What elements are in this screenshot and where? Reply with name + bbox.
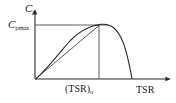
y-axis-label-cp: Cp <box>25 3 36 16</box>
x-axis-title: TSR <box>136 85 154 95</box>
y-axis-label-cpmax-subscript: pmax <box>15 24 29 31</box>
cp-curve <box>36 24 132 79</box>
x-axis-label-tsr-optimum: (TSR)o <box>65 84 93 96</box>
tangent-line <box>36 26 99 79</box>
x-axis-label-tsr-optimum-text: (TSR) <box>65 83 90 94</box>
y-axis-label-cpmax: Cpmax <box>8 19 29 32</box>
y-axis-label-cp-subscript: p <box>32 8 36 16</box>
x-axis-label-tsr-optimum-subscript: o <box>90 88 93 95</box>
cp-vs-tsr-figure: Cp Cpmax (TSR)o TSR <box>0 0 176 103</box>
